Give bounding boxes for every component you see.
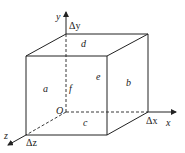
- face-f-label: f: [69, 83, 73, 94]
- origin-label: O: [56, 105, 63, 116]
- face-e-label: e: [96, 71, 101, 82]
- delta-x-text: Δx: [146, 115, 157, 126]
- top-face-edges: [26, 34, 148, 56]
- front-face-edges: [26, 56, 107, 135]
- delta-x-label: Δx: [146, 115, 157, 126]
- delta-y-label: Δy: [69, 20, 80, 31]
- x-axis-label: x: [165, 117, 171, 128]
- z-axis-label: z: [3, 130, 8, 141]
- delta-z-label: Δz: [26, 137, 37, 148]
- face-c-label: c: [83, 117, 88, 128]
- face-a-label: a: [43, 83, 48, 94]
- delta-y-text: Δy: [69, 20, 80, 31]
- cube-diagram: y x z O Δy Δx Δz a b c d e f: [0, 0, 185, 153]
- y-axis-label: y: [55, 11, 61, 22]
- z-axis-arrow: [8, 135, 26, 145]
- face-d-label: d: [81, 38, 87, 49]
- face-b-label: b: [126, 77, 131, 88]
- delta-z-text: Δz: [26, 137, 37, 148]
